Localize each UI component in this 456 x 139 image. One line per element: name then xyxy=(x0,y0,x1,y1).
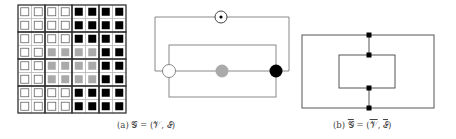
gray-pixel xyxy=(61,75,69,83)
gray-pixel xyxy=(88,48,96,56)
black-pixel xyxy=(115,35,123,43)
white-pixel xyxy=(61,21,69,29)
black-pixel xyxy=(88,35,96,43)
black-pixel xyxy=(75,102,83,110)
white-pixel xyxy=(34,102,42,110)
white-node xyxy=(163,65,176,78)
black-pixel xyxy=(75,21,83,29)
caption-a: (a) 𝒢 = (𝒱, ℰ) xyxy=(117,120,175,131)
white-pixel xyxy=(34,48,42,56)
white-pixel xyxy=(61,89,69,97)
white-pixel xyxy=(34,75,42,83)
gray-pixel xyxy=(75,48,83,56)
top-node-dot xyxy=(219,15,222,18)
black-pixel xyxy=(75,89,83,97)
white-pixel xyxy=(48,8,56,16)
black-pixel xyxy=(75,35,83,43)
white-pixel xyxy=(21,62,29,70)
black-pixel xyxy=(75,8,83,16)
white-pixel xyxy=(48,21,56,29)
white-pixel xyxy=(34,89,42,97)
black-pixel xyxy=(88,89,96,97)
black-pixel xyxy=(102,8,110,16)
gray-pixel xyxy=(88,62,96,70)
gray-node xyxy=(216,65,229,78)
black-pixel xyxy=(102,89,110,97)
black-pixel xyxy=(115,21,123,29)
gray-pixel xyxy=(48,62,56,70)
gray-pixel xyxy=(48,75,56,83)
white-pixel xyxy=(34,35,42,43)
gray-pixel xyxy=(75,62,83,70)
black-pixel xyxy=(115,75,123,83)
node-square xyxy=(367,86,372,91)
white-pixel xyxy=(21,89,29,97)
caption-b-eq: = ( xyxy=(354,120,370,130)
black-pixel xyxy=(102,21,110,29)
inner-rect xyxy=(339,55,395,88)
white-pixel xyxy=(21,21,29,29)
white-pixel xyxy=(21,35,29,43)
black-pixel xyxy=(102,48,110,56)
white-pixel xyxy=(21,102,29,110)
white-pixel xyxy=(48,102,56,110)
black-pixel xyxy=(88,21,96,29)
black-pixel xyxy=(115,102,123,110)
black-pixel xyxy=(88,102,96,110)
outer-rect xyxy=(302,35,434,108)
figure-canvas xyxy=(0,0,456,139)
white-pixel xyxy=(61,35,69,43)
pixel-grid xyxy=(18,5,126,113)
black-pixel xyxy=(102,75,110,83)
gray-pixel xyxy=(61,48,69,56)
white-pixel xyxy=(34,21,42,29)
white-pixel xyxy=(61,102,69,110)
caption-a-formula: 𝒢 = (𝒱, ℰ) xyxy=(131,120,175,130)
white-pixel xyxy=(61,8,69,16)
caption-b: (b) 𝒢 = (𝒱, ℰ) xyxy=(333,120,391,131)
black-pixel xyxy=(88,8,96,16)
white-pixel xyxy=(21,48,29,56)
gray-pixel xyxy=(61,62,69,70)
black-pixel xyxy=(102,102,110,110)
gray-pixel xyxy=(75,75,83,83)
black-pixel xyxy=(115,89,123,97)
gray-pixel xyxy=(48,48,56,56)
graph-g-bar xyxy=(302,35,434,108)
white-pixel xyxy=(48,35,56,43)
node-square xyxy=(367,106,372,111)
black-pixel xyxy=(115,62,123,70)
black-node xyxy=(270,65,283,78)
graph-g xyxy=(155,17,289,97)
white-pixel xyxy=(34,62,42,70)
caption-b-label: (b) xyxy=(333,120,345,130)
black-pixel xyxy=(115,48,123,56)
white-pixel xyxy=(21,8,29,16)
node-square xyxy=(367,53,372,58)
caption-b-close: ) xyxy=(388,120,391,130)
gray-pixel xyxy=(88,75,96,83)
black-pixel xyxy=(102,62,110,70)
caption-a-label: (a) xyxy=(117,120,129,130)
caption-b-v: 𝒱 xyxy=(370,120,378,130)
black-pixel xyxy=(115,8,123,16)
black-pixel xyxy=(102,35,110,43)
outer-edge xyxy=(155,17,289,71)
graph-nodes xyxy=(163,11,283,78)
white-pixel xyxy=(48,89,56,97)
node-square xyxy=(367,33,372,38)
white-pixel xyxy=(34,8,42,16)
white-pixel xyxy=(21,75,29,83)
